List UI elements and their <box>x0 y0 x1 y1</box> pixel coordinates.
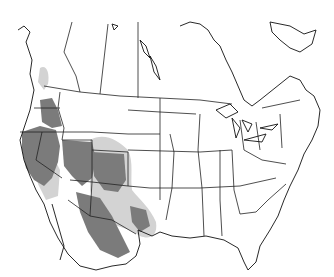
range-map <box>0 0 334 277</box>
lakes <box>112 24 278 142</box>
political-borders <box>20 22 300 236</box>
